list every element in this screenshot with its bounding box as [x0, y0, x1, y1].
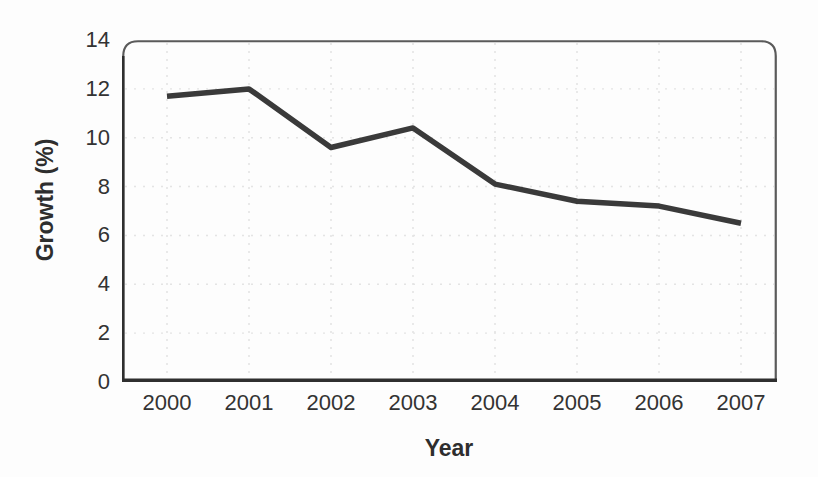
- y-tick-label: 0: [50, 368, 110, 396]
- y-tick-label: 6: [50, 221, 110, 249]
- x-tick-label: 2000: [126, 389, 208, 417]
- y-tick-label: 10: [50, 124, 110, 152]
- x-tick-label: 2004: [454, 389, 536, 417]
- x-tick-label: 2001: [208, 389, 290, 417]
- y-tick-label: 8: [50, 173, 110, 201]
- x-tick-label: 2003: [372, 389, 454, 417]
- x-tick-label: 2007: [700, 389, 782, 417]
- y-tick-label: 14: [50, 26, 110, 54]
- y-tick-label: 2: [50, 319, 110, 347]
- y-tick-label: 12: [50, 75, 110, 103]
- growth-chart-figure: Growth (%) 02468101214 20002001200220032…: [0, 0, 818, 477]
- plot-area: [122, 40, 777, 382]
- y-tick-label: 4: [50, 270, 110, 298]
- x-tick-label: 2006: [618, 389, 700, 417]
- x-tick-label: 2005: [536, 389, 618, 417]
- x-axis-title: Year: [389, 434, 509, 462]
- line-chart-canvas: [122, 40, 777, 382]
- x-tick-label: 2002: [290, 389, 372, 417]
